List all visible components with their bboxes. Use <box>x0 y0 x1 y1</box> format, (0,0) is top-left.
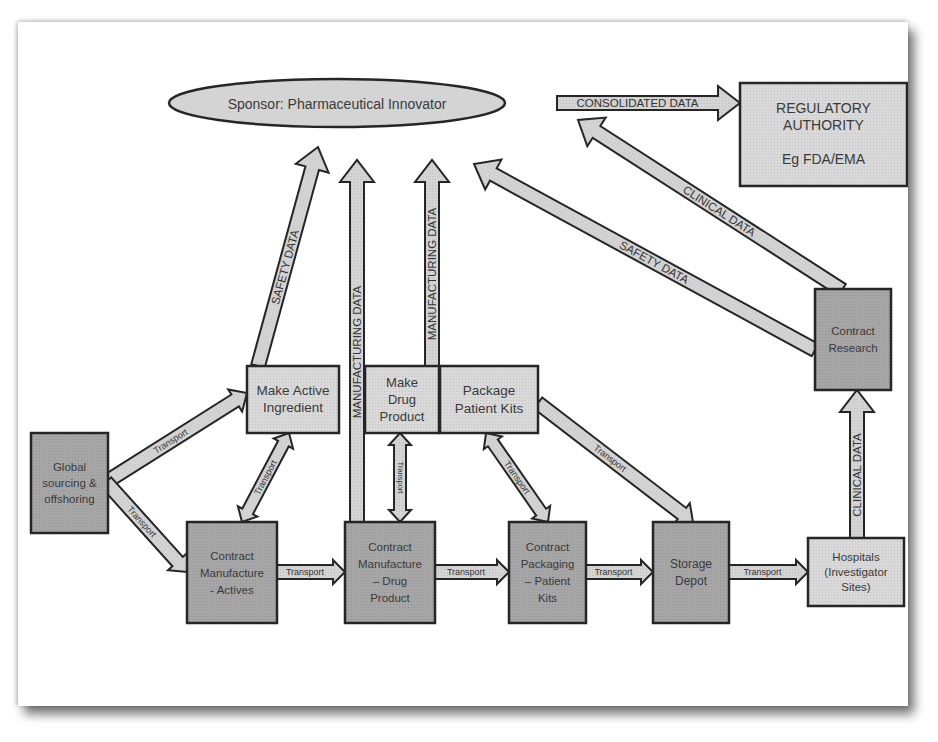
transport-global-to-cm-actives-arrow[interactable]: Transport <box>96 473 196 580</box>
box-label-line: Storage <box>670 557 712 571</box>
sponsor-label: Sponsor: Pharmaceutical Innovator <box>228 96 447 112</box>
box-label-line: Kits <box>538 592 557 604</box>
manufacturing-data-cm-drug-arrow[interactable]: MANUFACTURING DATA <box>340 160 374 522</box>
box-label-line: sourcing & <box>42 477 97 489</box>
box-label-line: Ingredient <box>263 400 323 415</box>
arrow-label: Transport <box>594 567 633 577</box>
box-label-line: Global <box>53 461 86 473</box>
arrow-label: MANUFACTURING DATA <box>426 207 438 340</box>
box-label-line: offshoring <box>44 493 94 505</box>
contract-research-box[interactable]: ContractResearch <box>815 289 891 390</box>
box-label-line: – Drug <box>373 575 408 587</box>
clinical-data-hosp-to-cr-arrow[interactable]: CLINICAL DATA <box>840 390 874 538</box>
box-label-line: Make <box>386 375 418 390</box>
sponsor-node[interactable]: Sponsor: Pharmaceutical Innovator <box>169 79 505 127</box>
manufacturing-data-make-drug-arrow[interactable]: MANUFACTURING DATA <box>415 160 449 366</box>
slide: CONSOLIDATED DATACLINICAL DATASAFETY DAT… <box>18 22 908 706</box>
global-sourcing-box[interactable]: Globalsourcing &offshoring <box>31 433 108 533</box>
box-texture <box>740 83 907 186</box>
safety-data-active-to-sponsor-arrow[interactable]: SAFETY DATA <box>242 143 335 371</box>
contract-packaging-kits-box[interactable]: ContractPackaging– PatientKits <box>509 522 586 623</box>
arrow-label: CONSOLIDATED DATA <box>576 97 698 109</box>
transport-cp-kits-to-storage-arrow[interactable]: Transport <box>586 560 653 584</box>
box-label-line: Contract <box>368 541 412 553</box>
box-texture <box>509 522 586 623</box>
transport-storage-to-hospitals-arrow[interactable]: Transport <box>729 560 808 584</box>
arrow-label: CLINICAL DATA <box>681 183 758 238</box>
arrow-label: MANUFACTURING DATA <box>351 285 363 418</box>
transport-global-to-active-arrow[interactable]: Transport <box>99 382 254 493</box>
storage-depot-box[interactable]: StorageDepot <box>653 522 729 623</box>
regulatory-authority-box[interactable]: REGULATORYAUTHORITYEg FDA/EMA <box>740 83 907 186</box>
box-label-line: Eg FDA/EMA <box>782 151 866 167</box>
package-patient-kits-box[interactable]: PackagePatient Kits <box>440 366 538 433</box>
arrow-label: Transport <box>502 459 532 496</box>
arrow-label: Transport <box>743 567 782 577</box>
contract-manufacture-drug-box[interactable]: ContractManufacture– DrugProduct <box>345 522 435 623</box>
arrow-label: SAFETY DATA <box>618 239 691 286</box>
box-texture <box>345 522 435 623</box>
box-label-line: Depot <box>675 574 708 588</box>
box-label-line: Manufacture <box>200 567 264 579</box>
box-texture <box>440 366 538 433</box>
box-label-line: REGULATORY <box>776 100 872 116</box>
box-label-line: (Investigator <box>824 566 887 578</box>
arrow-label: Transport <box>447 567 486 577</box>
box-label-line: Packaging <box>521 558 575 570</box>
box-label-line: - Actives <box>210 584 254 596</box>
consolidated-data-arrow[interactable]: CONSOLIDATED DATA <box>557 86 740 120</box>
arrow-label: CLINICAL DATA <box>851 433 863 517</box>
arrow-label: Transport <box>286 567 325 577</box>
box-label-line: Hospitals <box>832 551 880 563</box>
hospitals-box[interactable]: Hospitals(InvestigatorSites) <box>808 538 904 606</box>
box-texture <box>653 522 729 623</box>
box-texture <box>815 289 891 390</box>
arrow-label: Transport <box>396 462 405 495</box>
box-label-line: Contract <box>526 541 570 553</box>
box-label-line: Product <box>370 592 410 604</box>
transport-drug-cm-drug-arrow[interactable]: Transport <box>389 433 411 522</box>
transport-kits-to-storage-arrow[interactable]: Transport <box>530 393 701 533</box>
contract-manufacture-actives-box[interactable]: ContractManufacture- Actives <box>187 522 277 623</box>
supply-chain-diagram: CONSOLIDATED DATACLINICAL DATASAFETY DAT… <box>18 22 908 706</box>
box-label-line: Sites) <box>841 581 871 593</box>
make-drug-product-box[interactable]: MakeDrugProduct <box>365 366 439 433</box>
transport-cm-drug-to-cp-kits-arrow[interactable]: Transport <box>435 560 509 584</box>
box-label-line: Drug <box>388 392 416 407</box>
box-label-line: Manufacture <box>358 558 422 570</box>
box-label-line: Contract <box>210 550 254 562</box>
transport-cm-actives-to-cm-drug-arrow[interactable]: Transport <box>277 560 345 584</box>
box-label-line: Research <box>828 342 877 354</box>
box-label-line: Package <box>463 383 516 398</box>
transport-kits-cp-kits-arrow[interactable]: Transport <box>477 427 557 529</box>
make-active-ingredient-box[interactable]: Make ActiveIngredient <box>247 366 339 433</box>
box-label-line: Patient Kits <box>455 401 524 416</box>
transport-active-cm-actives-arrow[interactable]: Transport <box>232 428 298 527</box>
box-label-line: – Patient <box>525 575 571 587</box>
box-label-line: Make Active <box>257 383 330 398</box>
box-label-line: Contract <box>831 325 875 337</box>
box-label-line: AUTHORITY <box>783 117 865 133</box>
arrow-label: Transport <box>125 504 158 539</box>
box-label-line: Product <box>380 409 425 424</box>
